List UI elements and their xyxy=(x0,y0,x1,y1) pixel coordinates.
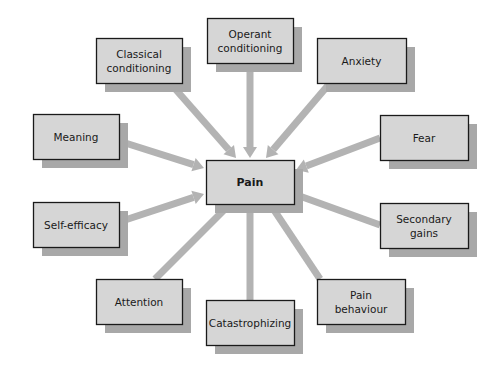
node-meaning: Meaning xyxy=(34,115,120,160)
node-label: behaviour xyxy=(335,303,388,315)
node-pain: Pain xyxy=(207,161,295,205)
node-label: Meaning xyxy=(54,131,99,143)
connector-anxiety xyxy=(266,83,330,158)
connector-pain-behaviour xyxy=(270,204,320,279)
connector-line xyxy=(270,204,320,279)
connector-attention xyxy=(155,204,230,279)
connector-line xyxy=(273,83,330,150)
connector-fear xyxy=(296,138,380,173)
node-fear: Fear xyxy=(381,116,469,161)
node-label: Operant xyxy=(229,28,272,40)
node-label: Catastrophizing xyxy=(209,317,291,329)
node-label: conditioning xyxy=(218,42,283,54)
node-attention: Attention xyxy=(97,280,183,325)
connector-self-efficacy xyxy=(119,191,204,222)
node-label: Fear xyxy=(413,132,436,144)
node-catastrophizing: Catastrophizing xyxy=(207,301,295,346)
connector-secondary-gains xyxy=(294,194,380,225)
connector-line xyxy=(119,197,194,222)
connector-classical-conditioning xyxy=(170,83,236,158)
node-label: Attention xyxy=(115,296,163,308)
node-label: gains xyxy=(410,227,438,239)
node-label: Secondary xyxy=(396,213,452,225)
connector-meaning xyxy=(119,141,204,171)
connector-line xyxy=(170,83,229,150)
node-operant-conditioning: Operantconditioning xyxy=(208,19,294,64)
node-secondary-gains: Secondarygains xyxy=(381,204,469,249)
arrowhead-icon xyxy=(243,147,257,158)
node-pain-behaviour: Painbehaviour xyxy=(318,280,406,325)
connector-line xyxy=(306,138,380,166)
connector-line xyxy=(119,141,194,165)
node-label: Classical xyxy=(116,48,162,60)
pain-influence-diagram: ClassicalconditioningOperantconditioning… xyxy=(0,0,501,367)
node-label: Anxiety xyxy=(342,55,382,67)
connector-line xyxy=(294,194,380,225)
node-anxiety: Anxiety xyxy=(318,39,407,84)
node-label: conditioning xyxy=(107,62,172,74)
node-label: Self-efficacy xyxy=(44,219,108,231)
node-label: Pain xyxy=(350,289,372,301)
node-classical-conditioning: Classicalconditioning xyxy=(97,39,183,84)
connector-line xyxy=(155,204,230,279)
node-label: Pain xyxy=(237,176,264,189)
node-self-efficacy: Self-efficacy xyxy=(34,203,120,248)
connector-operant-conditioning xyxy=(243,63,257,158)
